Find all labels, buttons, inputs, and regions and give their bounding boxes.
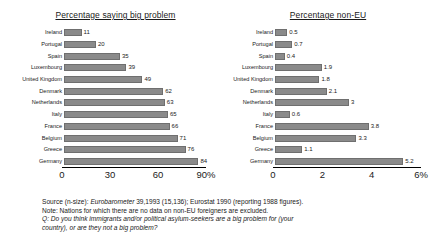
bar-value-label: 3.8 — [369, 123, 379, 130]
exclusion-note: Note: Nations for which there are no dat… — [42, 207, 426, 216]
axis-tick-label: 2 — [320, 169, 325, 180]
bar-category-label: Netherlands — [0, 99, 64, 106]
bar-category-label: Ireland — [0, 29, 64, 36]
bar — [64, 135, 178, 142]
bar-value-label: 84 — [198, 158, 207, 165]
bar-row: Portugal20 — [0, 39, 215, 51]
bar-value-label: 3 — [349, 99, 354, 106]
bar-track: 62 — [64, 85, 215, 97]
bar — [64, 111, 168, 118]
bar-category-label: France — [215, 123, 275, 130]
source-detail: 39,1993 (15,136); Eurostat 1990 (reporti… — [134, 198, 303, 205]
bar — [64, 158, 198, 165]
bar-track: 39 — [64, 62, 215, 74]
bar — [275, 88, 327, 95]
bar — [64, 146, 186, 153]
bar-track: 49 — [64, 74, 215, 86]
bar — [64, 123, 170, 130]
axis-tick-label: 4 — [369, 169, 374, 180]
bar — [64, 99, 165, 106]
bar-category-label: Germany — [215, 158, 275, 165]
bar-value-label: 0.7 — [292, 41, 302, 48]
bar — [275, 64, 322, 71]
bar-value-label: 35 — [120, 53, 129, 60]
x-axis-right: 0246% — [273, 167, 421, 183]
bar-value-label: 20 — [96, 41, 105, 48]
bar-category-label: Belgium — [215, 135, 275, 142]
axis-tick-label: 90% — [196, 169, 215, 180]
bar-track: 1.9 — [275, 62, 431, 74]
bar — [275, 158, 403, 165]
bar-value-label: 62 — [163, 88, 172, 95]
bar-track: 65 — [64, 109, 215, 121]
bar-row: Ireland0.5 — [215, 27, 431, 39]
bar-row: Denmark2.1 — [215, 85, 431, 97]
bar-row: Germany5.2 — [215, 156, 431, 168]
bar-category-label: Denmark — [0, 88, 64, 95]
bar-track: 3.8 — [275, 121, 431, 133]
bar-category-label: Italy — [215, 111, 275, 118]
bar — [275, 29, 287, 36]
chart-title-left: Percentage saying big problem — [0, 10, 215, 20]
bar-track: 1.1 — [275, 144, 431, 156]
axis-tick-label: 60 — [153, 169, 164, 180]
bar-value-label: 1.1 — [302, 146, 312, 153]
bar-row: Denmark62 — [0, 85, 215, 97]
bar-track: 1.8 — [275, 74, 431, 86]
bar-category-label: Denmark — [215, 88, 275, 95]
bar-track: 76 — [64, 144, 215, 156]
bar-row: Spain0.4 — [215, 50, 431, 62]
bar-value-label: 49 — [142, 76, 151, 83]
bar-category-label: Luxembourg — [215, 64, 275, 71]
bar-category-label: Belgium — [0, 135, 64, 142]
bar-track: 0.4 — [275, 50, 431, 62]
bar-value-label: 76 — [186, 146, 195, 153]
bar-track: 66 — [64, 121, 215, 133]
bar — [275, 146, 302, 153]
bar-value-label: 71 — [178, 135, 187, 142]
source-note: Source (n-size): Eurobarometer 39,1993 (… — [42, 198, 426, 207]
bar-value-label: 11 — [82, 29, 90, 36]
charts-container: Percentage saying big problem Ireland11P… — [0, 0, 431, 183]
chart-panel-big-problem: Percentage saying big problem Ireland11P… — [0, 10, 215, 183]
bar-row: Luxembourg39 — [0, 62, 215, 74]
bar — [275, 111, 290, 118]
bar-track: 20 — [64, 39, 215, 51]
bar-category-label: Italy — [0, 111, 64, 118]
bar-value-label: 0.6 — [290, 111, 300, 118]
bar-category-label: Netherlands — [215, 99, 275, 106]
bar-category-label: Greece — [0, 146, 64, 153]
bar-row: United Kingdom49 — [0, 74, 215, 86]
bar-value-label: 2.1 — [327, 88, 337, 95]
chart-page: Percentage saying big problem Ireland11P… — [0, 0, 431, 252]
axis-tick-label: 30 — [105, 169, 116, 180]
bar-value-label: 65 — [168, 111, 177, 118]
axis-tick-label: 0 — [59, 169, 64, 180]
chart-title-right: Percentage non-EU — [215, 10, 431, 20]
bar-row: France66 — [0, 121, 215, 133]
bar-rows-left: Ireland11Portugal20Spain35Luxembourg39Un… — [0, 27, 215, 167]
bar-row: Belgium3.3 — [215, 132, 431, 144]
bar-track: 63 — [64, 97, 215, 109]
bar-row: Belgium71 — [0, 132, 215, 144]
bar — [275, 41, 292, 48]
bar-value-label: 63 — [165, 99, 174, 106]
bar-track: 11 — [64, 27, 215, 39]
bar-rows-right: Ireland0.5Portugal0.7Spain0.4Luxembourg1… — [215, 27, 431, 167]
bar-track: 3 — [275, 97, 431, 109]
bar-track: 0.5 — [275, 27, 431, 39]
bar-row: Netherlands3 — [215, 97, 431, 109]
bar-category-label: Germany — [0, 158, 64, 165]
bar — [64, 53, 120, 60]
bar-value-label: 66 — [170, 123, 179, 130]
bar-track: 0.6 — [275, 109, 431, 121]
bar-category-label: France — [0, 123, 64, 130]
bar — [275, 99, 349, 106]
footnotes: Source (n-size): Eurobarometer 39,1993 (… — [42, 198, 426, 232]
bar — [275, 123, 369, 130]
bar-value-label: 3.3 — [356, 135, 366, 142]
bar-category-label: Luxembourg — [0, 64, 64, 71]
bar-row: Luxembourg1.9 — [215, 62, 431, 74]
question-text-line-1: Q: Do you think immigrants and/or politi… — [42, 215, 426, 224]
bar-track: 5.2 — [275, 156, 431, 168]
